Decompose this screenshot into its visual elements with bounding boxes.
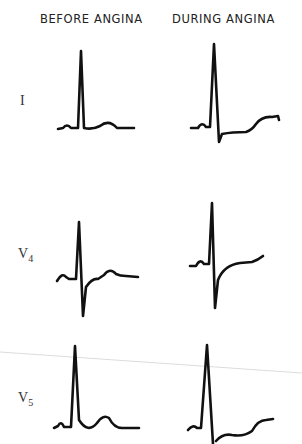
ecg-figure: BEFORE ANGINA DURING ANGINA I V4 V5	[0, 0, 302, 444]
trace-v5-during	[188, 345, 273, 444]
trace-v4-before	[57, 222, 138, 316]
scan-artifact-line	[0, 352, 302, 373]
ecg-traces	[0, 0, 302, 444]
trace-v4-during	[190, 203, 263, 308]
trace-i-before	[58, 51, 134, 129]
trace-i-during	[191, 44, 279, 142]
